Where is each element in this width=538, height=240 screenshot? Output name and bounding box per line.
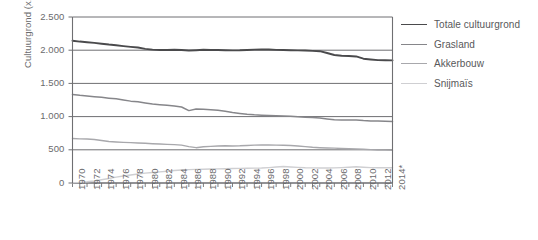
x-axis-tick-label: 1970 <box>76 168 87 190</box>
x-axis-tick-label: 2006 <box>338 168 349 190</box>
x-axis-tick-label: 1990 <box>222 168 233 190</box>
chart-legend: Totale cultuurgrondGraslandAkkerbouwSnij… <box>401 15 537 93</box>
legend-color-swatch <box>401 24 427 25</box>
legend-item[interactable]: Totale cultuurgrond <box>401 15 537 35</box>
legend-label: Totale cultuurgrond <box>434 19 520 30</box>
legend-label: Grasland <box>434 39 475 50</box>
series-line <box>73 94 393 121</box>
x-axis-tick-label: 1974 <box>105 168 116 190</box>
x-axis-tick-label: 2004 <box>323 168 334 190</box>
x-axis-tick-label: 2012 <box>382 168 393 190</box>
legend-item[interactable]: Snijmaïs <box>401 74 537 94</box>
x-axis-tick-label: 1988 <box>207 168 218 190</box>
gridlines <box>69 17 393 183</box>
series-line <box>73 139 393 151</box>
x-axis-tick-label: 1980 <box>149 168 160 190</box>
x-axis-tick-label: 1972 <box>91 168 102 190</box>
x-axis-tick-label: 2014* <box>396 165 407 190</box>
legend-color-swatch <box>401 44 427 45</box>
legend-color-swatch <box>401 83 427 84</box>
x-axis-tick-label: 1996 <box>265 168 276 190</box>
x-axis-tick-label: 2008 <box>352 168 363 190</box>
x-axis-tick-label: 1992 <box>236 168 247 190</box>
x-axis-tick-label: 1982 <box>163 168 174 190</box>
x-axis-tick-label: 1984 <box>178 168 189 190</box>
x-axis-tick-label: 2000 <box>294 168 305 190</box>
legend-item[interactable]: Akkerbouw <box>401 54 537 74</box>
x-axis-tick-label: 1978 <box>134 168 145 190</box>
chart-figure: Cultuurgrond (x1.000 ha) 05001.0001.5002… <box>0 0 538 240</box>
legend-color-swatch <box>401 63 427 64</box>
x-axis-tick-label: 1976 <box>120 168 131 190</box>
series-lines <box>73 41 393 183</box>
x-axis-tick-label: 2002 <box>309 168 320 190</box>
x-axis-tick-label: 1998 <box>280 168 291 190</box>
x-axis-tick-label: 2010 <box>367 168 378 190</box>
x-axis-tick-label: 1986 <box>192 168 203 190</box>
legend-label: Akkerbouw <box>434 58 484 69</box>
legend-item[interactable]: Grasland <box>401 35 537 55</box>
x-axis-tick-label: 1994 <box>251 168 262 190</box>
legend-label: Snijmaïs <box>434 78 473 89</box>
